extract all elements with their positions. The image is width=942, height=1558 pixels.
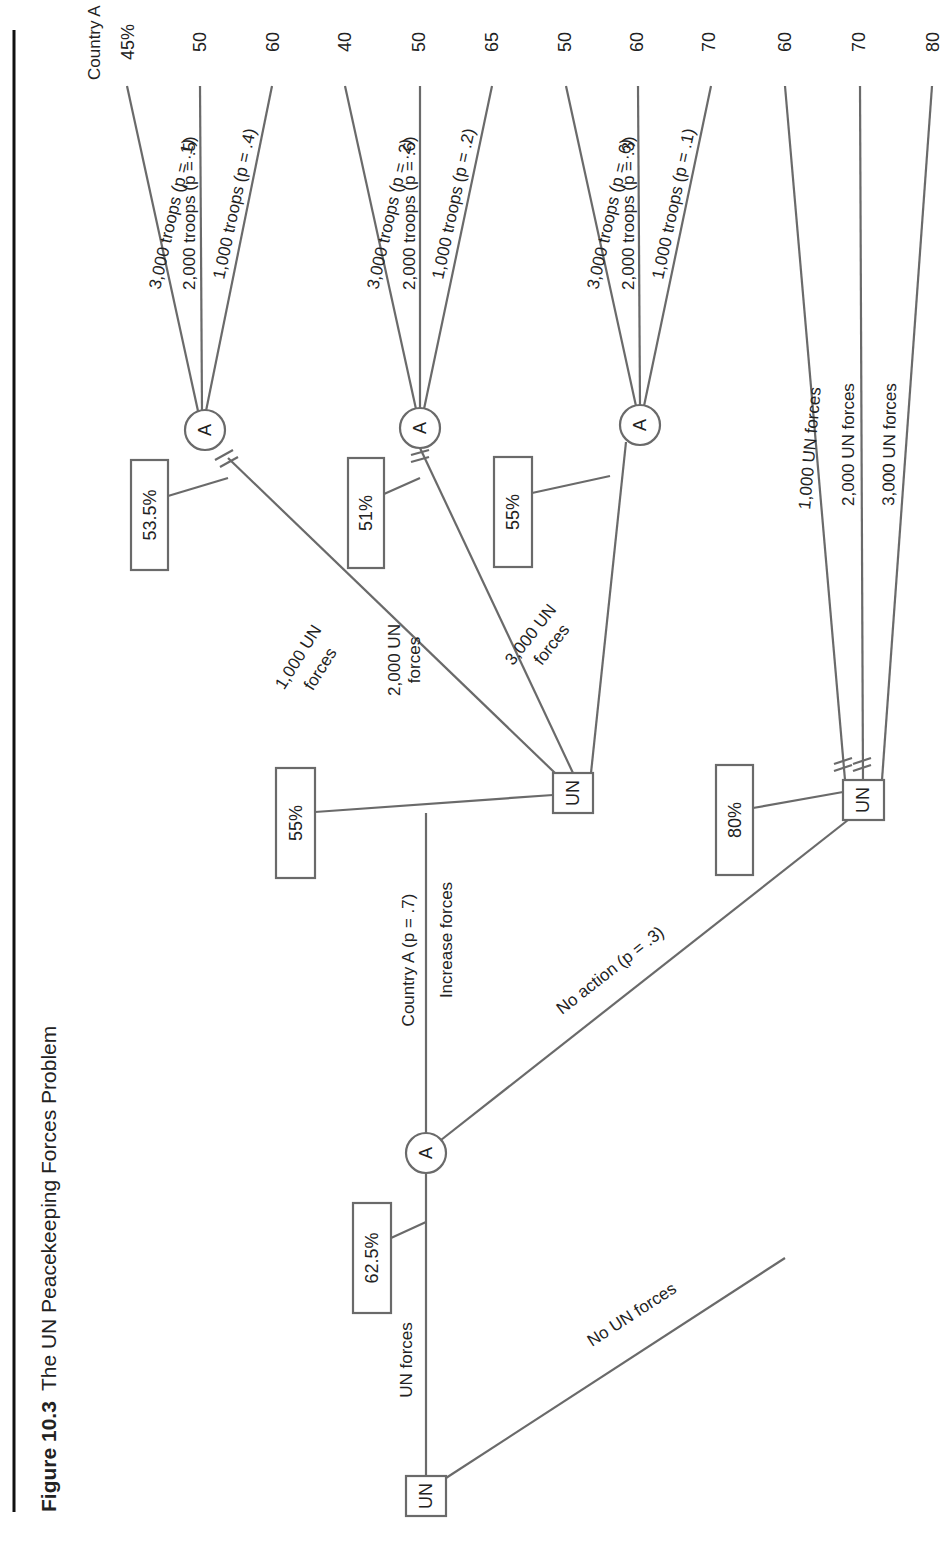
country-a-chance-node: A xyxy=(406,813,848,1173)
value-box-chance-3: 55% xyxy=(494,457,610,567)
payoff-2-3: 65 xyxy=(482,32,502,52)
figure-title: The UN Peacekeeping Forces Problem xyxy=(37,1026,60,1391)
value-box-root: 62.5% xyxy=(353,1203,426,1313)
branch-label-country-a-increase: Country A (p = .7) xyxy=(399,894,418,1027)
payoff-4-2: 70 xyxy=(849,32,869,52)
payoff-2-1: 40 xyxy=(335,32,355,52)
value-un-no-action: 80% xyxy=(725,802,745,838)
leaf-label-2-3: 1,000 troops (p = .2) xyxy=(428,127,479,281)
payoff-1-2: 50 xyxy=(190,32,210,52)
branch-no-action xyxy=(441,820,848,1140)
branch-label-no-action: No action (p = .3) xyxy=(553,923,668,1019)
payoff-3-3: 70 xyxy=(699,32,719,52)
leaf-label-3-3: 1,000 troops (p = .1) xyxy=(648,127,699,281)
leaf-label-2-2: 2,000 troops (p = .6) xyxy=(400,136,419,290)
chance-node-3-label: A xyxy=(630,419,650,431)
payoff-4-3: 80 xyxy=(923,32,942,52)
leaf-label-4-3: 3,000 UN forces xyxy=(879,383,900,506)
chance-node-1-label: A xyxy=(195,424,215,436)
branch-3000-un xyxy=(591,442,626,773)
country-a-node-label: A xyxy=(416,1147,436,1159)
branch-label-un-forces: UN forces xyxy=(397,1322,416,1398)
un-increase-node-label: UN xyxy=(563,780,583,806)
payoff-3-2: 60 xyxy=(627,32,647,52)
value-chance-3: 55% xyxy=(503,494,523,530)
value-root: 62.5% xyxy=(362,1232,382,1283)
leaf-branch-1-2 xyxy=(200,86,202,410)
payoff-4-1: 60 xyxy=(775,32,795,52)
value-box-un-increase: 55% xyxy=(276,768,553,878)
root-node-label: UN xyxy=(416,1483,436,1509)
value-chance-1: 53.5% xyxy=(140,489,160,540)
leaf-branch-4-2 xyxy=(860,86,863,780)
terminal-payoffs: 45% 50 60 40 50 65 50 60 70 60 70 80 xyxy=(118,24,942,60)
leaf-label-1-2: 2,000 troops (p = .5) xyxy=(180,136,199,290)
chance-node-2-label: A xyxy=(410,422,430,434)
payoff-1-3: 60 xyxy=(263,32,283,52)
decision-tree-diagram: Figure 10.3The UN Peacekeeping Forces Pr… xyxy=(0,0,942,1558)
value-box-chance-1: 53.5% xyxy=(131,460,228,570)
value-chance-2: 51% xyxy=(356,495,376,531)
figure-number: Figure 10.3 xyxy=(37,1401,60,1512)
value-box-un-no-action: 80% xyxy=(716,765,843,875)
leaf-label-3-2: 2,000 troops (p = .3) xyxy=(619,136,638,290)
leaf-branch-3-2 xyxy=(638,86,640,405)
un-no-action-node-label: UN xyxy=(853,787,873,813)
payoff-2-2: 50 xyxy=(409,32,429,52)
branch-label-increase-forces: Increase forces xyxy=(437,882,456,998)
value-box-chance-2: 51% xyxy=(348,458,420,568)
leaf-label-1-3: 1,000 troops (p = .4) xyxy=(209,127,260,281)
figure-caption: Figure 10.3The UN Peacekeeping Forces Pr… xyxy=(37,1026,60,1512)
payoff-1-1: 45% xyxy=(118,24,138,60)
branch-no-un-forces xyxy=(446,1258,785,1478)
leaf-label-4-2: 2,000 UN forces xyxy=(839,383,858,506)
chance-header-country-a: Country A xyxy=(85,5,104,80)
branch-label-2000-un-line2: forces xyxy=(405,637,424,683)
branch-label-2000-un-line1: 2,000 UN xyxy=(385,624,404,696)
branch-label-no-un-forces: No UN forces xyxy=(584,1279,680,1351)
value-un-increase: 55% xyxy=(286,805,306,841)
payoff-3-1: 50 xyxy=(555,32,575,52)
